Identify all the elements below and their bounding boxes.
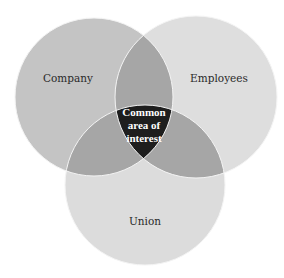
company-label: Company xyxy=(43,72,93,84)
common-area-label-line-3: interest xyxy=(126,132,162,144)
employees-label: Employees xyxy=(190,72,248,84)
common-area-label-line-1: Common xyxy=(122,106,165,118)
venn-diagram: Company Employees Union Common area of i… xyxy=(0,0,284,278)
common-area-label-line-2: area of xyxy=(128,119,161,131)
union-label: Union xyxy=(129,215,161,227)
